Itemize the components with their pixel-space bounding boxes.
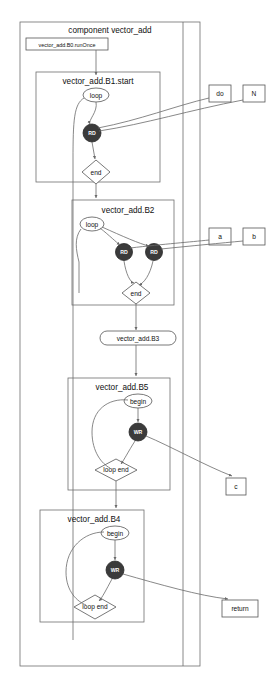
edge-b4-wr-to-loopend bbox=[99, 579, 112, 601]
node-b2-end-label: end bbox=[130, 290, 141, 297]
node-b5-begin-label: begin bbox=[130, 398, 146, 406]
cluster-label-b5: vector_add.B5 bbox=[96, 383, 149, 392]
control-flow-graph: component vector_add vector_add.B0.runOn… bbox=[0, 0, 278, 692]
edge-b2-loop-to-rd2 bbox=[102, 227, 149, 246]
node-b4-wr-label: WR bbox=[111, 567, 120, 573]
edge-b1-rd-to-end bbox=[92, 142, 95, 159]
cluster-label-b4: vector_add.B4 bbox=[68, 515, 121, 524]
edge-b2-rd1-to-end bbox=[124, 261, 134, 283]
port-return-label: return bbox=[231, 605, 249, 612]
cluster-label-component: component vector_add bbox=[68, 26, 152, 35]
node-b2-rd-2-label: RD bbox=[150, 249, 158, 255]
node-b1-end-label: end bbox=[90, 169, 101, 176]
node-b5-loopend-label: loop end bbox=[103, 466, 129, 474]
port-n-label: N bbox=[252, 90, 257, 97]
edge-b1-loop-to-rd bbox=[90, 102, 97, 124]
cluster-label-b2: vector_add.B2 bbox=[102, 206, 155, 215]
node-b2-loop-label: loop bbox=[86, 221, 99, 229]
node-b1-loop-label: loop bbox=[90, 92, 103, 100]
node-b4-begin-label: begin bbox=[107, 530, 123, 538]
node-b1-rd-label: RD bbox=[88, 130, 96, 136]
edge-do-to-b1-rd bbox=[98, 98, 209, 128]
edge-b1-loop-backbone bbox=[73, 98, 84, 640]
edge-b4-loop-back bbox=[66, 532, 104, 605]
node-b4-loopend-label: loop end bbox=[82, 603, 108, 611]
edge-b4-wr-to-return bbox=[123, 574, 228, 599]
port-b-label: b bbox=[252, 233, 256, 240]
edge-b5-loop-back bbox=[92, 400, 128, 468]
edge-b2-rd2-to-end bbox=[139, 261, 153, 285]
port-do-label: do bbox=[216, 90, 224, 97]
node-b5-wr-label: WR bbox=[134, 429, 143, 435]
edge-n-to-b1-rd bbox=[99, 100, 243, 131]
port-a-label: a bbox=[218, 233, 222, 240]
edge-b5-wr-to-loopend bbox=[121, 441, 135, 464]
node-b3-label: vector_add.B3 bbox=[117, 335, 160, 343]
node-b2-rd-1-label: RD bbox=[120, 249, 128, 255]
diagram-canvas: component vector_add vector_add.B0.runOn… bbox=[0, 0, 278, 692]
node-b0-runonce-label: vector_add.B0.runOnce bbox=[39, 42, 96, 48]
cluster-label-b1: vector_add.B1.start bbox=[63, 77, 135, 86]
edge-b2-loop-back bbox=[76, 229, 81, 293]
edge-b5-wr-to-c bbox=[146, 436, 232, 476]
